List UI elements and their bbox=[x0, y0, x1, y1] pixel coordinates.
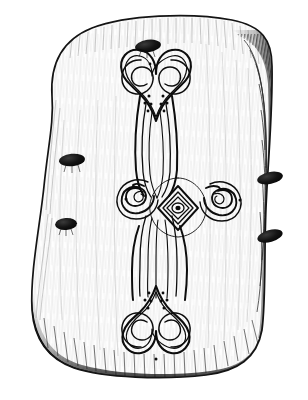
stone-slab-drawing: Carved stone slab with curvilinear spira… bbox=[0, 0, 308, 400]
top-terminal-dot bbox=[149, 63, 152, 66]
right-arm-dot bbox=[239, 199, 242, 202]
left-arm-dot bbox=[125, 198, 128, 201]
bottom-terminal-dot bbox=[155, 358, 158, 361]
figure-container: Carved stone slab with curvilinear spira… bbox=[0, 0, 308, 400]
